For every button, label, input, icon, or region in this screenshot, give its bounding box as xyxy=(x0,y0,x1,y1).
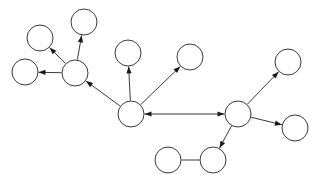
graph-node-n7[interactable] xyxy=(118,101,144,127)
graph-node-n8[interactable] xyxy=(225,101,251,127)
graph-svg xyxy=(0,0,320,184)
graph-node-n9[interactable] xyxy=(275,49,301,75)
graph-node-n4[interactable] xyxy=(62,60,88,86)
graph-edge-e6 xyxy=(141,66,181,104)
graph-node-n6[interactable] xyxy=(177,44,203,70)
arrowhead-e10-end xyxy=(219,141,225,148)
graph-node-n10[interactable] xyxy=(282,115,308,141)
graph-node-n5[interactable] xyxy=(115,40,141,66)
arrowhead-e7-start xyxy=(145,111,152,116)
node-layer xyxy=(12,9,308,173)
arrowhead-e4-end xyxy=(86,81,93,87)
graph-node-n1[interactable] xyxy=(27,25,53,51)
graph-node-n3[interactable] xyxy=(12,59,38,85)
arrowhead-e2-end xyxy=(78,35,83,42)
graph-node-n11[interactable] xyxy=(155,147,181,173)
graph-diagram-canvas xyxy=(0,0,320,184)
arrowhead-e3-end xyxy=(38,70,45,75)
graph-node-n12[interactable] xyxy=(200,147,226,173)
graph-node-n2[interactable] xyxy=(71,9,97,35)
arrowhead-e5-end xyxy=(126,66,131,73)
edge-layer xyxy=(38,35,281,160)
arrowhead-e9-end xyxy=(274,121,281,126)
arrowhead-e7-end xyxy=(218,111,225,116)
